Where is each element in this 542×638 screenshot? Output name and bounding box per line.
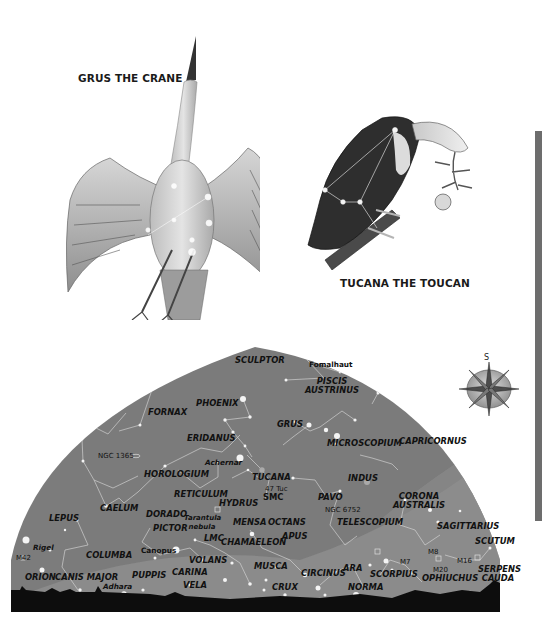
label-piscis-austrinus: PISCIS AUSTRINUS xyxy=(298,377,366,395)
label-dorado: DORADO xyxy=(146,510,187,519)
label-chamaeleon: CHAMAELEON xyxy=(221,538,286,547)
label-columba: COLUMBA xyxy=(86,551,132,560)
label-capricornus: CAPRICORNUS xyxy=(399,437,467,446)
label-pictor: PICTOR xyxy=(153,524,188,533)
label-puppis: PUPPIS xyxy=(132,571,166,580)
label-mensa: MENSA xyxy=(233,518,267,527)
label-orion: ORION xyxy=(25,573,56,582)
label-octans: OCTANS xyxy=(268,518,306,527)
label-indus: INDUS xyxy=(348,474,378,483)
label-fornax: FORNAX xyxy=(148,408,187,417)
label-m16: M16 xyxy=(457,557,472,566)
label-tarantula-nebula: Tarantula nebula xyxy=(184,514,220,532)
label-ngc-6752: NGC 6752 xyxy=(325,506,361,515)
label-m42: M42 xyxy=(16,554,31,563)
label-tucana: TUCANA xyxy=(252,473,291,482)
label-rigel: Rigel xyxy=(33,543,54,552)
label-crux: CRUX xyxy=(272,583,298,592)
label-telescopium: TELESCOPIUM xyxy=(337,518,403,527)
label-ngc-1365: NGC 1365 xyxy=(98,452,134,461)
label-eridanus: ERIDANUS xyxy=(187,434,236,443)
label-norma: NORMA xyxy=(348,583,383,592)
label-achernar: Achernar xyxy=(205,458,242,467)
label-carina: CARINA xyxy=(172,568,208,577)
label-phoenix: PHOENIX xyxy=(196,399,239,408)
label-fomalhaut: Fomalhaut xyxy=(309,360,353,369)
label-canopus: Canopus xyxy=(141,546,176,555)
label-hydrus: HYDRUS xyxy=(219,499,258,508)
label-sagittarius: SAGITTARIUS xyxy=(437,522,499,531)
label-m8: M8 xyxy=(428,548,439,557)
label-m20: M20 xyxy=(433,566,448,575)
label-scutum: SCUTUM xyxy=(475,537,515,546)
label-sculptor: SCULPTOR xyxy=(235,356,285,365)
label-circinus: CIRCINUS xyxy=(301,569,346,578)
label-pavo: PAVO xyxy=(318,493,343,502)
label-caelum: CAELUM xyxy=(100,504,138,513)
label-lmc: LMC xyxy=(204,534,224,543)
label-ophiuchus: OPHIUCHUS xyxy=(422,574,478,583)
label-vela: VELA xyxy=(183,581,207,590)
label-canis-major: CANIS MAJOR xyxy=(55,573,118,582)
label-corona-australis: CORONA AUSTRALIS xyxy=(393,492,445,510)
label-lepus: LEPUS xyxy=(49,514,79,523)
label-serpens-cauda: SERPENS CAUDA xyxy=(478,565,518,583)
label-grus: GRUS xyxy=(277,420,303,429)
label-scorpius: SCORPIUS xyxy=(370,570,418,579)
label-ara: ARA xyxy=(343,564,362,573)
label-apus: APUS xyxy=(282,532,307,541)
label-microscopium: MICROSCOPIUM xyxy=(327,439,402,448)
label-musca: MUSCA xyxy=(254,562,288,571)
label-smc: SMC xyxy=(263,493,284,502)
label-adhara: Adhara xyxy=(103,582,132,591)
label-volans: VOLANS xyxy=(189,556,227,565)
label-m7: M7 xyxy=(400,558,411,567)
label-horologium: HOROLOGIUM xyxy=(144,470,209,479)
